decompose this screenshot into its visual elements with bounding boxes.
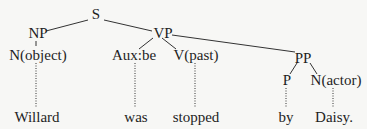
node-vp: VP <box>153 25 172 41</box>
node-pp: PP <box>295 50 312 66</box>
node-aux-be: Aux:be <box>112 47 156 63</box>
leaf-by: by <box>279 109 294 125</box>
node-p: P <box>283 72 291 88</box>
edge-s-vp <box>104 20 152 31</box>
node-np: NP <box>28 25 47 41</box>
leaf-willard: Willard <box>14 109 59 125</box>
node-n-object: N(object) <box>9 47 66 63</box>
leaf-daisy: Daisy. <box>315 109 353 125</box>
leaf-stopped: stopped <box>173 109 220 125</box>
node-n-actor: N(actor) <box>311 72 362 88</box>
node-s: S <box>92 6 100 22</box>
edge-s-np <box>46 20 88 31</box>
leaf-was: was <box>124 109 147 125</box>
node-v-past: V(past) <box>174 47 219 63</box>
